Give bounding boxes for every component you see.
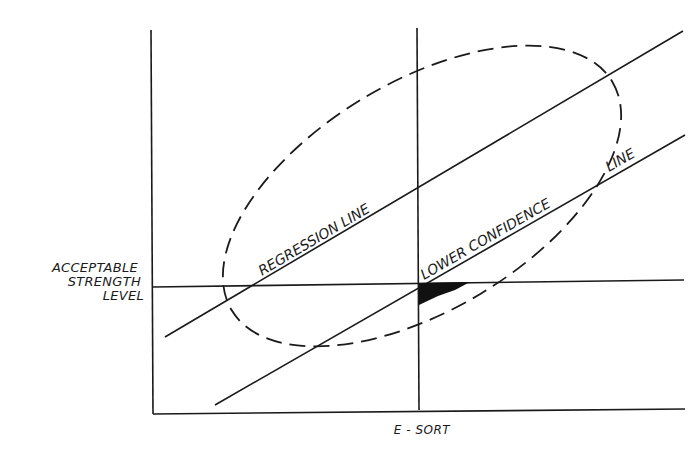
- y-axis-label: ACCEPTABLE STRENGTH LEVEL: [10, 261, 158, 303]
- y-axis-label-line-3: LEVEL: [10, 289, 144, 303]
- diagram-canvas: REGRESSION LINE LOWER CONFIDENCE LINE: [0, 0, 694, 453]
- regression-line-label: REGRESSION LINE: [255, 200, 372, 278]
- lower-confidence-label-tail: LINE: [603, 145, 638, 175]
- shaded-rejection-region: [419, 282, 470, 305]
- e-sort-reference-line: [417, 28, 419, 410]
- x-axis-label: E - SORT: [372, 423, 472, 437]
- lower-confidence-label: LOWER CONFIDENCE: [418, 195, 554, 283]
- y-axis-label-line-1: ACCEPTABLE: [10, 261, 138, 275]
- lower-confidence-line: [215, 135, 685, 405]
- confidence-ellipse: [173, 0, 671, 408]
- y-axis: [151, 30, 153, 414]
- y-axis-label-line-2: STRENGTH: [10, 275, 141, 289]
